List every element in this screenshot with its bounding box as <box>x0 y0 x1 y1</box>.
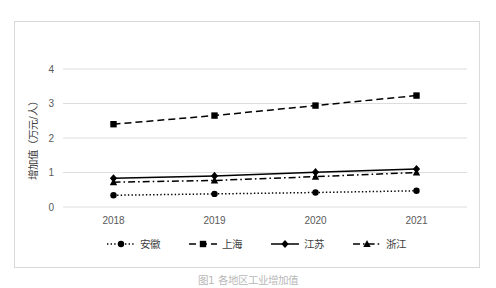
y-tick-label: 0 <box>48 202 54 213</box>
legend-label: 安徽 <box>140 238 161 250</box>
data-point-circle <box>110 192 116 198</box>
series-line <box>114 169 417 178</box>
data-point-circle <box>413 188 419 194</box>
x-tick-label: 2019 <box>203 215 226 226</box>
legend-item-浙江: 浙江 <box>353 238 407 250</box>
series-0 <box>110 188 419 199</box>
series-2 <box>110 165 420 183</box>
legend-item-江苏: 江苏 <box>271 238 324 250</box>
chart-frame: 012342018201920202021增加值（万元/人）安徽上海江苏浙江 <box>14 21 480 268</box>
x-axis-labels: 2018201920202021 <box>102 215 428 226</box>
y-tick-label: 2 <box>48 133 54 144</box>
x-tick-label: 2020 <box>304 215 327 226</box>
y-tick-label: 4 <box>48 64 54 75</box>
legend-label: 浙江 <box>386 238 407 250</box>
series-line <box>114 191 417 195</box>
x-tick-label: 2018 <box>102 215 125 226</box>
data-point-square <box>413 92 419 98</box>
legend-label: 江苏 <box>304 238 324 250</box>
legend-label: 上海 <box>222 238 243 250</box>
series-1 <box>110 92 419 127</box>
legend: 安徽上海江苏浙江 <box>107 238 407 250</box>
y-tick-label: 3 <box>48 98 54 109</box>
data-point-circle <box>118 241 124 247</box>
data-point-circle <box>312 189 318 195</box>
data-point-square <box>312 102 318 108</box>
series-line <box>114 96 417 125</box>
legend-item-安徽: 安徽 <box>107 238 161 250</box>
data-point-square <box>211 112 217 118</box>
line-chart: 012342018201920202021增加值（万元/人）安徽上海江苏浙江 <box>15 22 481 269</box>
legend-item-上海: 上海 <box>189 238 243 250</box>
y-tick-label: 1 <box>48 167 54 178</box>
gridlines: 01234 <box>48 64 467 213</box>
x-tick-label: 2021 <box>405 215 428 226</box>
data-point-square <box>200 241 206 247</box>
data-point-diamond <box>281 240 288 248</box>
y-axis-title: 增加值（万元/人） <box>27 96 39 180</box>
data-point-square <box>110 121 116 127</box>
figure-caption: 图1 各地区工业增加值 <box>0 272 496 288</box>
data-point-circle <box>211 191 217 197</box>
